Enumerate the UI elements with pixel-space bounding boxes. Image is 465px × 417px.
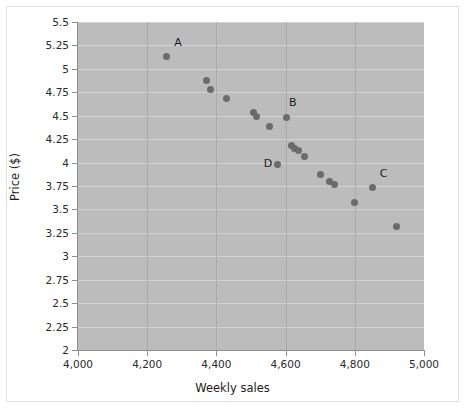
y-tick-label: 2.75 <box>46 275 69 286</box>
gridline-horizontal <box>78 327 424 328</box>
gridline-horizontal <box>78 45 424 46</box>
x-tick-label: 4,400 <box>201 359 231 370</box>
x-tick-mark <box>286 351 287 356</box>
point-label-a: A <box>174 37 182 48</box>
x-tick-mark <box>424 351 425 356</box>
chart-figure: ABCD 22.252.52.7533.253.53.7544.254.54.7… <box>0 0 465 417</box>
gridline-vertical <box>216 22 217 350</box>
gridline-vertical <box>147 22 148 350</box>
y-tick-mark <box>72 327 77 328</box>
data-point <box>266 123 273 130</box>
y-tick-label: 5.25 <box>46 40 69 51</box>
gridline-horizontal <box>78 233 424 234</box>
point-label-d: D <box>264 158 272 169</box>
x-axis-title: Weekly sales <box>0 381 465 395</box>
y-tick-mark <box>72 186 77 187</box>
gridline-horizontal <box>78 69 424 70</box>
y-tick-mark <box>72 116 77 117</box>
data-point <box>203 77 210 84</box>
data-point <box>351 199 358 206</box>
y-tick-label: 2.25 <box>46 322 69 333</box>
gridline-vertical <box>355 22 356 350</box>
data-point <box>207 86 214 93</box>
y-tick-label: 3.25 <box>46 228 69 239</box>
y-tick-label: 3.75 <box>46 181 69 192</box>
data-point <box>317 171 324 178</box>
y-tick-mark <box>72 256 77 257</box>
y-tick-label: 2 <box>62 345 69 356</box>
y-tick-label: 3.5 <box>52 204 69 215</box>
y-tick-mark <box>72 163 77 164</box>
y-tick-label: 4.75 <box>46 87 69 98</box>
y-tick-label: 4.25 <box>46 134 69 145</box>
y-tick-label: 4.5 <box>52 111 69 122</box>
data-point <box>393 223 400 230</box>
gridline-horizontal <box>78 280 424 281</box>
y-tick-mark <box>72 22 77 23</box>
y-tick-mark <box>72 69 77 70</box>
data-point <box>295 147 302 154</box>
y-axis-line <box>77 22 78 351</box>
data-point-a <box>163 53 170 60</box>
data-point <box>301 153 308 160</box>
y-tick-mark <box>72 303 77 304</box>
x-tick-label: 5,000 <box>409 359 439 370</box>
y-tick-label: 5 <box>62 64 69 75</box>
gridline-horizontal <box>78 163 424 164</box>
gridline-horizontal <box>78 22 424 23</box>
gridline-horizontal <box>78 303 424 304</box>
y-tick-mark <box>72 280 77 281</box>
data-point <box>331 181 338 188</box>
x-tick-mark <box>216 351 217 356</box>
data-point-b <box>283 114 290 121</box>
data-point-d <box>274 161 281 168</box>
x-tick-label: 4,800 <box>340 359 370 370</box>
y-tick-label: 4 <box>62 158 69 169</box>
x-tick-label: 4,000 <box>63 359 93 370</box>
y-axis-title: Price ($) <box>8 137 22 217</box>
x-tick-mark <box>147 351 148 356</box>
x-tick-label: 4,200 <box>132 359 162 370</box>
y-tick-label: 3 <box>62 251 69 262</box>
gridline-horizontal <box>78 92 424 93</box>
x-axis-line <box>77 350 425 351</box>
y-tick-label: 2.5 <box>52 298 69 309</box>
point-label-c: C <box>380 168 388 179</box>
y-tick-mark <box>72 45 77 46</box>
y-tick-label: 5.5 <box>52 17 69 28</box>
plot-area: ABCD <box>78 22 424 350</box>
gridline-vertical <box>286 22 287 350</box>
gridline-horizontal <box>78 139 424 140</box>
gridline-horizontal <box>78 256 424 257</box>
gridline-horizontal <box>78 116 424 117</box>
y-tick-mark <box>72 350 77 351</box>
y-tick-mark <box>72 139 77 140</box>
y-tick-mark <box>72 233 77 234</box>
gridline-horizontal <box>78 209 424 210</box>
y-tick-mark <box>72 92 77 93</box>
data-point-c <box>369 184 376 191</box>
data-point <box>223 95 230 102</box>
x-tick-mark <box>78 351 79 356</box>
x-tick-label: 4,600 <box>271 359 301 370</box>
data-point <box>253 113 260 120</box>
y-tick-mark <box>72 209 77 210</box>
x-tick-mark <box>355 351 356 356</box>
point-label-b: B <box>289 97 297 108</box>
